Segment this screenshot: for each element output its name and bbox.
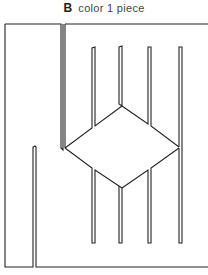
upper-slot-2 bbox=[119, 46, 122, 106]
upper-slot-2b bbox=[122, 47, 179, 147]
lower-slot-3 bbox=[122, 148, 179, 243]
lower-slot-4 bbox=[179, 148, 182, 243]
upper-slot-4 bbox=[179, 47, 182, 148]
pattern-diagram bbox=[0, 0, 208, 275]
lower-left-diag bbox=[65, 148, 122, 243]
upper-slot-1 bbox=[65, 47, 122, 148]
lower-slot-2 bbox=[119, 186, 122, 243]
left-frame-outline bbox=[5, 24, 63, 150]
